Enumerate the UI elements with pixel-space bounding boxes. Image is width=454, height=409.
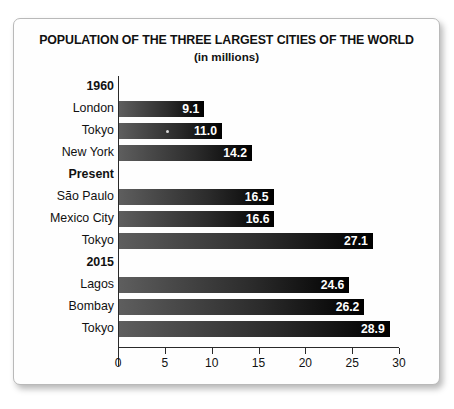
bar-wrapper: 11.0 [119,123,222,139]
bar-row[interactable]: London9.1 [14,98,441,120]
bar-wrapper: 9.1 [119,101,204,117]
bar[interactable]: 14.2 [119,145,252,161]
bar-wrapper: 14.2 [119,145,252,161]
bar-row[interactable]: New York14.2 [14,142,441,164]
bar-wrapper: 26.2 [119,299,364,315]
bar[interactable]: 28.9 [119,321,390,337]
bar-value-label: 16.5 [245,189,269,205]
group-heading-row: Present [14,164,441,186]
group-heading-label: 1960 [86,79,114,93]
bar-wrapper: 28.9 [119,321,390,337]
plot-area: 051015202530 1960London9.1Tokyo11.0New Y… [14,19,441,386]
bar-row-label: Tokyo [82,233,114,247]
bar-value-label: 28.9 [361,321,385,337]
bar-wrapper: 16.6 [119,211,274,227]
x-axis-tick-mark [399,348,400,354]
bar-row-label: Tokyo [82,321,114,335]
bar[interactable]: 11.0 [119,123,222,139]
bar-row-label: Bombay [69,299,114,313]
x-axis-tick-label: 15 [252,356,265,370]
bar[interactable]: 9.1 [119,101,204,117]
x-axis-tick-mark [212,348,213,354]
x-axis-tick-label: 20 [299,356,312,370]
group-heading-row: 1960 [14,76,441,98]
x-axis-tick-label: 25 [345,356,358,370]
bar-value-label: 27.1 [344,233,368,249]
group-heading-label: 2015 [86,255,114,269]
bar-value-label: 14.2 [223,145,247,161]
bar[interactable]: 24.6 [119,277,349,293]
bar[interactable]: 27.1 [119,233,373,249]
bar-row[interactable]: Mexico City16.6 [14,208,441,230]
bar-row-label: Tokyo [82,123,114,137]
bar-value-label: 24.6 [321,277,345,293]
x-axis-tick-label: 5 [161,356,168,370]
x-axis-tick-mark [259,348,260,354]
bar-value-label: 26.2 [336,299,360,315]
x-axis-tick-mark [118,348,119,354]
bar[interactable]: 16.5 [119,189,274,205]
bar-row-label: New York [62,145,114,159]
x-axis-tick-mark [165,348,166,354]
bar-row-label: Lagos [80,277,114,291]
bar-row[interactable]: Tokyo11.0 [14,120,441,142]
bar-row-label: London [73,101,114,115]
bar-artifact-speck [166,130,169,133]
chart-panel: POPULATION OF THE THREE LARGEST CITIES O… [13,18,440,385]
bar[interactable]: 26.2 [119,299,364,315]
bar-row[interactable]: São Paulo16.5 [14,186,441,208]
bar-wrapper: 24.6 [119,277,349,293]
bar[interactable]: 16.6 [119,211,274,227]
bar-row[interactable]: Lagos24.6 [14,274,441,296]
bar-value-label: 9.1 [182,101,199,117]
group-heading-label: Present [69,167,114,181]
x-axis-tick-label: 10 [205,356,218,370]
bar-wrapper: 16.5 [119,189,274,205]
bar-row[interactable]: Bombay26.2 [14,296,441,318]
x-axis-tick-mark [305,348,306,354]
x-axis-tick-mark [352,348,353,354]
bar-row-label: São Paulo [57,189,114,203]
group-heading-row: 2015 [14,252,441,274]
bar-value-label: 16.6 [246,211,270,227]
bar-wrapper: 27.1 [119,233,373,249]
bar-row-label: Mexico City [50,211,114,225]
bar-row[interactable]: Tokyo28.9 [14,318,441,340]
bar-value-label: 11.0 [194,123,217,139]
bar-row[interactable]: Tokyo27.1 [14,230,441,252]
x-axis-tick-label: 0 [115,356,122,370]
x-axis-tick-label: 30 [392,356,405,370]
